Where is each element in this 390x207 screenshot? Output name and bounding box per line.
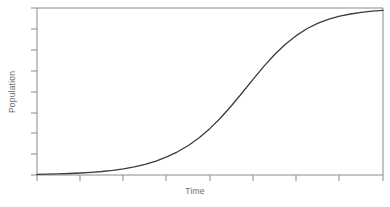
logistic-growth-curve bbox=[37, 10, 383, 174]
y-axis-title-wrapper: Population bbox=[0, 0, 24, 183]
y-axis-ticks bbox=[31, 8, 37, 175]
x-axis-ticks bbox=[37, 175, 383, 181]
plot-frame bbox=[37, 8, 383, 175]
plot-area bbox=[0, 0, 390, 207]
chart-figure: Population Time bbox=[0, 0, 390, 207]
y-axis-title: Population bbox=[7, 70, 17, 112]
x-axis-title: Time bbox=[0, 186, 390, 196]
